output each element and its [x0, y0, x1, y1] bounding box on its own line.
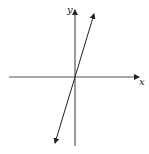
x-axis-label: x — [139, 76, 145, 87]
graph-line — [75, 14, 94, 77]
graph-line-lower — [55, 77, 75, 143]
y-axis-label: y — [66, 4, 73, 15]
coordinate-plane: x y — [0, 0, 149, 154]
